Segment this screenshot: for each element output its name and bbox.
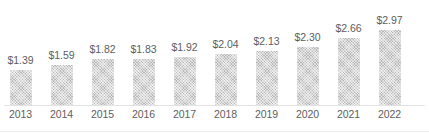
bar-group: $2.66 bbox=[328, 0, 369, 106]
x-axis-tick-label: 2013 bbox=[0, 108, 41, 120]
bar-chart: $1.39 $1.59 $1.82 $1.83 $1.92 $2.04 $2.1… bbox=[0, 0, 429, 136]
bar[interactable] bbox=[338, 38, 360, 106]
x-axis-tick-label: 2018 bbox=[205, 108, 246, 120]
x-axis-tick-labels: 2013 2014 2015 2016 2017 2018 2019 2020 … bbox=[0, 108, 429, 124]
bar[interactable] bbox=[256, 51, 278, 106]
bar-value-label: $2.13 bbox=[254, 35, 280, 47]
bar-group: $1.39 bbox=[0, 0, 41, 106]
x-axis-tick-label: 2021 bbox=[328, 108, 369, 120]
bar[interactable] bbox=[51, 65, 73, 106]
bar[interactable] bbox=[379, 30, 401, 106]
bar-group: $2.13 bbox=[246, 0, 287, 106]
bar-value-label: $1.83 bbox=[131, 43, 157, 55]
bar[interactable] bbox=[174, 57, 196, 106]
bar[interactable] bbox=[92, 59, 114, 106]
bar-group: $2.04 bbox=[205, 0, 246, 106]
bar-value-label: $2.66 bbox=[336, 22, 362, 34]
bar[interactable] bbox=[133, 59, 155, 106]
x-axis-line bbox=[4, 105, 425, 106]
bar-group: $1.82 bbox=[82, 0, 123, 106]
x-axis-tick-label: 2014 bbox=[41, 108, 82, 120]
bar-value-label: $2.97 bbox=[377, 14, 403, 26]
bar-group: $1.92 bbox=[164, 0, 205, 106]
bar-group: $2.97 bbox=[369, 0, 410, 106]
bar-value-label: $1.39 bbox=[8, 54, 34, 66]
bar-group: $1.59 bbox=[41, 0, 82, 106]
plot-area: $1.39 $1.59 $1.82 $1.83 $1.92 $2.04 $2.1… bbox=[0, 0, 429, 106]
bar[interactable] bbox=[10, 70, 32, 106]
bar-value-label: $2.30 bbox=[295, 31, 321, 43]
bar-value-label: $1.82 bbox=[90, 43, 116, 55]
x-axis-tick-label: 2017 bbox=[164, 108, 205, 120]
x-axis-tick-label: 2022 bbox=[369, 108, 410, 120]
bar-group: $1.83 bbox=[123, 0, 164, 106]
x-axis-tick-label: 2015 bbox=[82, 108, 123, 120]
bar-group: $2.30 bbox=[287, 0, 328, 106]
bar-value-label: $2.04 bbox=[213, 38, 239, 50]
x-axis-tick-label: 2020 bbox=[287, 108, 328, 120]
bottom-divider bbox=[0, 131, 429, 132]
x-axis-tick-label: 2019 bbox=[246, 108, 287, 120]
bar-value-label: $1.92 bbox=[172, 41, 198, 53]
bar[interactable] bbox=[215, 54, 237, 106]
bar-value-label: $1.59 bbox=[49, 49, 75, 61]
bar[interactable] bbox=[297, 47, 319, 106]
x-axis-tick-label: 2016 bbox=[123, 108, 164, 120]
